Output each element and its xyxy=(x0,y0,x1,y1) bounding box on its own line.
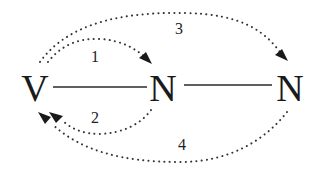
arc-label-2: 2 xyxy=(91,109,99,126)
node-n2: N xyxy=(276,67,303,109)
node-v: V xyxy=(21,67,49,109)
node-n1: N xyxy=(149,67,176,109)
arrowhead-icon xyxy=(38,112,51,124)
arc-label-1: 1 xyxy=(91,48,99,65)
arrowhead-icon xyxy=(49,112,63,123)
arc-1 xyxy=(48,39,152,64)
arc-4 xyxy=(38,112,287,162)
arc-3 xyxy=(40,13,288,62)
arc-label-4: 4 xyxy=(178,136,186,153)
arrowhead-icon xyxy=(139,52,152,64)
pathway-diagram: V N N 1 2 3 4 xyxy=(0,0,329,172)
arc-label-3: 3 xyxy=(175,20,183,37)
arrowhead-icon xyxy=(275,49,288,61)
arc-2 xyxy=(49,110,151,134)
